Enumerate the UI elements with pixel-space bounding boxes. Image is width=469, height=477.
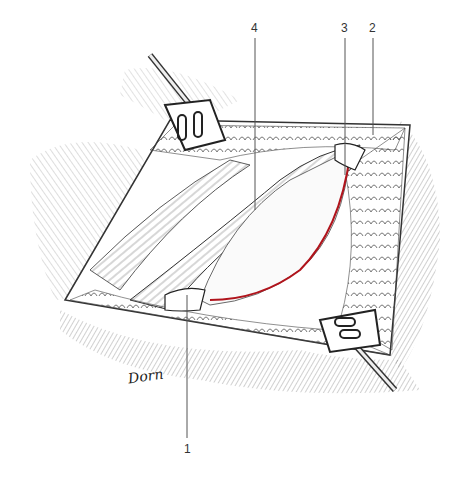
- surgical-illustration: [0, 0, 469, 477]
- label-4: 4: [251, 22, 258, 34]
- label-3: 3: [341, 22, 348, 34]
- label-1: 1: [184, 443, 191, 455]
- label-2: 2: [369, 22, 376, 34]
